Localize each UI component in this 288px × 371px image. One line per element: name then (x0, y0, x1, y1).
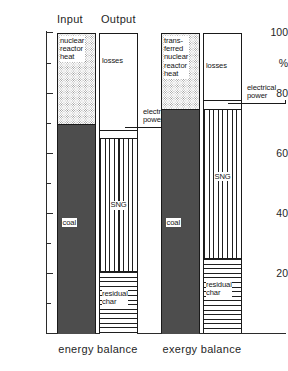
exergy-output-bar: losses SNG residual char (203, 33, 242, 333)
energy-exergy-balance-figure: 100 % 80 60 40 20 Input Output nuclear r… (0, 0, 288, 371)
segment-residual-char-energy: residual char (100, 271, 137, 334)
exergy-input-bar: trans- ferred nuclear reactor heat coal (161, 33, 200, 333)
energy-output-bar: losses SNG residual char (99, 33, 138, 333)
energy-input-bar: nuclear reactor heat coal (57, 33, 96, 333)
segment-label-coal-energy: coal (62, 218, 77, 227)
segment-residual-char-exergy: residual char (204, 258, 241, 335)
segment-label-sng-energy: SNG (110, 201, 127, 210)
segment-label-nuclear-reactor-heat: nuclear reactor heat (60, 36, 85, 62)
y-tick-40 (47, 213, 53, 214)
column-heading-output: Output (101, 14, 136, 25)
segment-coal-energy: coal (58, 124, 95, 334)
y-tick-20 (47, 273, 53, 274)
y-tick-60 (47, 153, 53, 154)
segment-label-transferred-nuclear-reactor-heat: trans- ferred nuclear reactor heat (164, 36, 189, 79)
segment-electrical-power-energy (100, 130, 137, 138)
leader-line-electrical-power-exergy (228, 103, 286, 104)
y-tick-label-100: 100 (256, 27, 288, 38)
y-tick-100 (47, 32, 53, 33)
segment-sng-energy: SNG (100, 138, 137, 272)
leader-elbow-electrical-power-exergy (285, 100, 286, 104)
segment-label-sng-exergy: SNG (214, 172, 231, 181)
y-tick-10 (47, 303, 51, 304)
column-heading-input: Input (57, 14, 83, 25)
y-tick-label-40: 40 (256, 208, 288, 219)
segment-label-coal-exergy: coal (166, 218, 181, 227)
segment-losses-energy: losses (100, 34, 137, 130)
y-tick-80 (47, 93, 53, 94)
segment-label-losses-energy: losses (102, 56, 124, 65)
y-tick-label-20: 20 (256, 268, 288, 279)
segment-label-residual-char-exergy: residual char (206, 281, 233, 299)
segment-transferred-nuclear-reactor-heat-exergy: trans- ferred nuclear reactor heat (162, 34, 199, 109)
y-axis-unit-label: % (256, 58, 288, 69)
segment-label-residual-char-energy: residual char (102, 289, 129, 307)
group-caption-exergy-balance: exergy balance (146, 344, 258, 355)
segment-nuclear-reactor-heat-energy: nuclear reactor heat (58, 34, 95, 124)
group-caption-energy-balance: energy balance (43, 344, 153, 355)
segment-electrical-power-exergy (204, 100, 241, 109)
y-tick-label-60: 60 (256, 148, 288, 159)
segment-losses-exergy: losses (204, 34, 241, 100)
segment-label-losses-exergy: losses (206, 61, 228, 70)
callout-electrical-power-exergy: electrical power (247, 84, 276, 101)
segment-coal-exergy: coal (162, 109, 199, 334)
y-tick-50 (47, 183, 51, 184)
y-tick-90 (47, 63, 51, 64)
segment-sng-exergy: SNG (204, 109, 241, 258)
y-tick-30 (47, 243, 51, 244)
y-tick-70 (47, 123, 51, 124)
